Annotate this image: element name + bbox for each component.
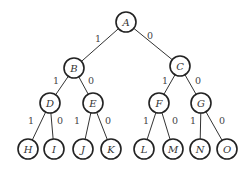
node-label: J — [79, 144, 86, 155]
edge-label-d-h: 1 — [28, 115, 34, 126]
node-label: C — [176, 61, 184, 72]
binary-tree-diagram: 10101010101010 ABCDEFGHIJKLMNO — [0, 0, 248, 174]
node-g: G — [191, 93, 211, 113]
edge-f-m — [162, 113, 170, 140]
edge-label-f-l: 1 — [143, 115, 149, 126]
node-f: F — [149, 93, 169, 113]
edge-label-a-c: 0 — [147, 30, 153, 41]
edge-g-n — [200, 113, 201, 139]
node-label: D — [45, 98, 54, 109]
node-label: B — [69, 63, 77, 74]
node-b: B — [64, 58, 84, 78]
node-label: O — [223, 144, 231, 155]
edge-label-g-o: 0 — [219, 115, 225, 126]
node-h: H — [18, 139, 38, 159]
node-label: E — [88, 98, 97, 109]
node-d: D — [40, 93, 60, 113]
edge-label-b-e: 0 — [88, 75, 94, 86]
node-label: H — [23, 144, 33, 155]
edge-label-c-f: 1 — [162, 75, 168, 86]
node-e: E — [83, 93, 103, 113]
edge-d-h — [32, 112, 45, 140]
node-c: C — [170, 56, 190, 76]
node-o: O — [217, 139, 237, 159]
edge-label-f-m: 0 — [172, 115, 178, 126]
node-label: F — [155, 98, 164, 109]
node-label: K — [106, 144, 115, 155]
node-n: N — [190, 139, 210, 159]
node-a: A — [116, 12, 136, 32]
node-label: N — [195, 144, 206, 155]
node-label: A — [121, 17, 129, 28]
edge-b-e — [79, 77, 88, 94]
node-m: M — [163, 139, 183, 159]
node-label: L — [140, 144, 148, 155]
node-j: J — [73, 139, 93, 159]
node-k: K — [101, 139, 121, 159]
node-label: M — [167, 144, 179, 155]
edge-label-e-j: 1 — [74, 115, 80, 126]
edge-label-c-g: 0 — [195, 75, 201, 86]
edge-label-d-i: 0 — [57, 115, 63, 126]
node-label: G — [197, 98, 205, 109]
node-l: L — [134, 139, 154, 159]
node-i: I — [44, 139, 64, 159]
edge-label-g-n: 1 — [190, 115, 196, 126]
edge-label-a-b: 1 — [95, 33, 101, 44]
edge-d-i — [51, 113, 53, 139]
edge-e-j — [85, 113, 91, 139]
edge-label-b-d: 1 — [53, 75, 59, 86]
nodes-group: ABCDEFGHIJKLMNO — [18, 12, 237, 159]
edge-label-e-k: 0 — [105, 115, 111, 126]
